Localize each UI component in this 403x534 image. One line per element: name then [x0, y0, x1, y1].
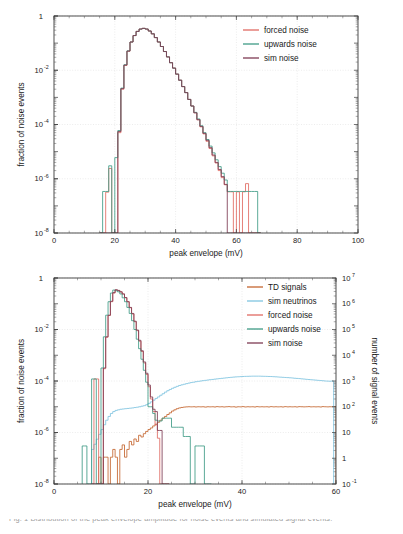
chart-legend: TD signalssim neutrinosforced noiseupwar…: [247, 283, 321, 348]
y2-tick-exponent: -1: [352, 478, 357, 484]
x-tick-label: 40: [238, 487, 246, 496]
x-axis-title: peak envelope (mV): [158, 500, 232, 509]
y-tick-exponent: -8: [44, 478, 49, 484]
x-tick-label: 0: [52, 487, 56, 496]
figure-caption-text: Fig. 1 Distribution of the peak envelope…: [9, 519, 332, 523]
y2-tick-label: 10: [342, 274, 350, 283]
x-tick-label: 0: [52, 236, 56, 245]
y-tick-label: 10: [35, 120, 43, 129]
chart-legend: forced noiseupwards noisesim noise: [243, 26, 317, 63]
y2-axis-title: number of signal events: [370, 338, 379, 425]
y2-tick-exponent: 4: [352, 349, 355, 355]
y2-tick-label: 10: [342, 351, 350, 360]
chart-panel-bottom: 0204060110-210-410-610-81071061051041031…: [0, 262, 403, 512]
legend-label-upwards-noise: upwards noise: [264, 40, 317, 49]
y2-tick-label: 10: [342, 402, 350, 411]
y-tick-exponent: -8: [44, 227, 49, 233]
y2-tick-label: 1: [342, 454, 346, 463]
y2-tick-exponent: 3: [352, 375, 355, 381]
legend-label-sim-neutrinos: sim neutrinos: [268, 297, 317, 306]
x-tick-label: 80: [293, 236, 301, 245]
y-tick-label: 1: [39, 274, 43, 283]
y-tick-exponent: -2: [44, 323, 49, 329]
y2-tick-exponent: 6: [352, 298, 355, 304]
legend-label-sim-noise: sim noise: [264, 54, 299, 63]
x-axis-title: peak envelope (mV): [169, 249, 243, 258]
y2-tick-label: 10: [342, 299, 350, 308]
series-sim-neutrinos: [92, 376, 334, 484]
y-tick-exponent: -4: [44, 375, 49, 381]
y-tick-exponent: -4: [44, 118, 49, 124]
x-tick-label: 40: [171, 236, 179, 245]
y2-tick-label: 10: [342, 428, 350, 437]
y2-tick-label: 10: [342, 480, 350, 489]
series-sim-noise: [92, 290, 170, 484]
x-tick-label: 60: [332, 487, 340, 496]
y2-tick-label: 10: [342, 377, 350, 386]
y-tick-label: 10: [35, 480, 43, 489]
legend-label-forced-noise: forced noise: [268, 311, 313, 320]
x-tick-label: 60: [232, 236, 240, 245]
y2-tick-label: 10: [342, 325, 350, 334]
chart-panel-top: 020406080100110-210-410-610-8peak envelo…: [0, 0, 403, 262]
figure-container: 020406080100110-210-410-610-8peak envelo…: [0, 0, 403, 534]
legend-label-upwards-noise: upwards noise: [268, 325, 321, 334]
y-tick-label: 1: [39, 12, 43, 21]
y2-tick-exponent: 7: [352, 272, 355, 278]
series-upwards-noise: [82, 290, 211, 484]
y-tick-label: 10: [35, 229, 43, 238]
legend-label-forced-noise: forced noise: [264, 26, 309, 35]
y-axis-title: fraction of noise events: [17, 339, 26, 423]
x-tick-label: 20: [111, 236, 119, 245]
y-tick-exponent: -6: [44, 173, 49, 179]
y-tick-label: 10: [35, 428, 43, 437]
y-axis-title: fraction of noise events: [17, 82, 26, 166]
y-tick-label: 10: [35, 325, 43, 334]
y-tick-exponent: -6: [44, 426, 49, 432]
y2-tick-exponent: 5: [352, 323, 355, 329]
x-tick-label: 100: [352, 236, 365, 245]
legend-label-sim-noise: sim noise: [268, 339, 303, 348]
y-tick-label: 10: [35, 174, 43, 183]
y-tick-label: 10: [35, 66, 43, 75]
y-tick-label: 10: [35, 377, 43, 386]
legend-label-TD-signals: TD signals: [268, 283, 307, 292]
x-tick-label: 20: [144, 487, 152, 496]
series-TD-signals: [96, 407, 336, 484]
figure-caption-strip: Fig. 1 Distribution of the peak envelope…: [0, 519, 403, 534]
y-tick-exponent: -2: [44, 64, 49, 70]
y2-tick-exponent: 2: [352, 401, 355, 407]
